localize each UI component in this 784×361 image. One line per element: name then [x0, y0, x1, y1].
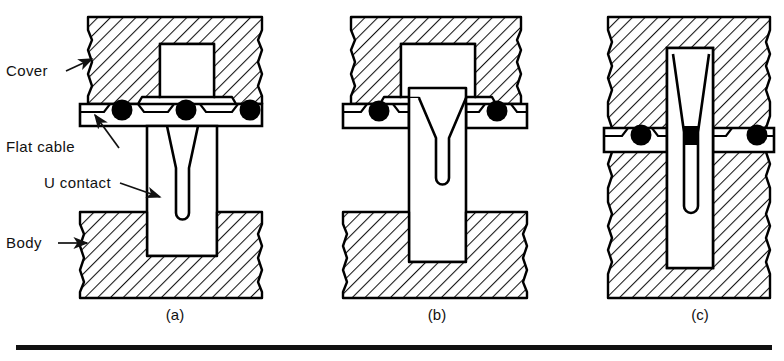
panel-b-conductor-3: [487, 101, 508, 122]
panel-b-conductor-1: [369, 101, 390, 122]
panel-c-label: (c): [691, 306, 709, 323]
bottom-rule: [16, 345, 772, 350]
panel-a-conductor-1: [112, 100, 133, 121]
callout-label-body: Body: [6, 234, 42, 251]
panel-b-label: (b): [428, 306, 446, 323]
figure-root: (a) (b): [0, 0, 784, 361]
callout-label-cover: Cover: [6, 62, 48, 79]
callout-label-u-contact: U contact: [44, 174, 111, 191]
panel-a-label: (a): [166, 306, 184, 323]
panel-a-u-contact: [147, 126, 217, 256]
callout-label-flat-cable: Flat cable: [6, 138, 75, 155]
panel-a-conductor-3: [240, 100, 261, 121]
panel-c-conductor-1: [631, 125, 652, 146]
panel-c: (c): [604, 17, 774, 323]
panel-c-conductor-2: [684, 126, 698, 145]
panel-c-conductor-3: [747, 125, 768, 146]
panel-a-conductor-2: [176, 100, 197, 121]
panel-a-cover-cavity: [160, 44, 214, 97]
